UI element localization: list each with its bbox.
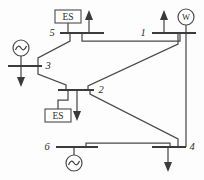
energy-storage-bus-2[interactable]: ES [45, 109, 71, 122]
bus-label-2: 2 [98, 84, 104, 95]
single-line-diagram-canvas: ES ES W 5 1 3 2 6 4 [0, 0, 204, 180]
load-arrow-bus-4 [164, 147, 172, 172]
bus-label-3: 3 [44, 60, 50, 71]
power-system-diagram: ES ES W 5 1 3 2 6 4 [0, 0, 204, 180]
wind-generator-label: W [182, 12, 190, 22]
bus-label-1: 1 [140, 27, 145, 38]
injection-arrow-bus-5-head [85, 10, 93, 20]
bus-label-4: 4 [189, 141, 195, 152]
bus-label-6: 6 [44, 141, 50, 152]
load-arrow-bus-3 [17, 66, 25, 87]
injection-arrow-bus-5 [85, 10, 93, 33]
injection-arrow-bus-1-head [160, 10, 168, 20]
branch-line-2-4 [90, 90, 178, 147]
injection-arrow-bus-1 [160, 10, 168, 33]
branch-line-3-2 [38, 66, 66, 90]
load-arrow-bus-2 [73, 90, 81, 121]
load-arrow-bus-2-head [73, 111, 81, 121]
branch-line-5-1 [82, 33, 180, 41]
load-arrow-bus-4-head [164, 162, 172, 172]
synchronous-generator-bus-3[interactable] [13, 40, 29, 56]
synchronous-generator-bus-6[interactable] [66, 155, 82, 171]
bus-label-5: 5 [49, 27, 54, 38]
energy-storage-label-bus-2: ES [52, 111, 63, 121]
load-arrow-bus-3-head [17, 77, 25, 87]
wind-generator-bus-1[interactable]: W [178, 9, 194, 25]
energy-storage-bus-5[interactable]: ES [55, 10, 81, 23]
energy-storage-label-bus-5: ES [62, 12, 73, 22]
